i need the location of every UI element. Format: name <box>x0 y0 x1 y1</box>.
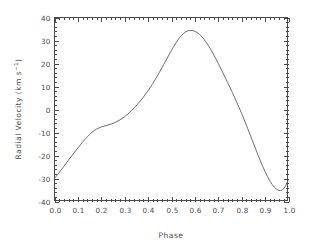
y-axis-major-ticks <box>55 19 289 203</box>
x-tick-label: 0.8 <box>236 206 248 215</box>
x-tick-label: 0.7 <box>212 206 224 215</box>
radial-velocity-curve <box>55 30 289 190</box>
x-tick-label: 0.1 <box>72 206 84 215</box>
x-tick-label: 0.5 <box>166 206 178 215</box>
x-tick-label: 0.6 <box>189 206 201 215</box>
y-tick-label: 10 <box>41 83 51 92</box>
x-axis-tick-labels: 0.00.10.20.30.40.50.60.70.80.91.0 <box>49 206 295 215</box>
y-axis-title-exponent: −1 <box>13 62 19 71</box>
y-tick-label: -30 <box>38 175 51 184</box>
y-tick-label: 30 <box>41 37 51 46</box>
y-tick-label: 20 <box>41 60 51 69</box>
figure-container: 0.00.10.20.30.40.50.60.70.80.91.0 -40-30… <box>0 0 312 246</box>
y-axis-minor-ticks <box>55 23 289 198</box>
x-tick-label: 0.3 <box>119 206 131 215</box>
y-axis-title: Radial Velocity (km s−1) <box>13 59 23 160</box>
x-tick-label: 0.9 <box>259 206 271 215</box>
x-axis-title: Phase <box>159 231 184 240</box>
y-axis-title-main: Radial Velocity (km s <box>14 71 23 160</box>
x-tick-label: 1.0 <box>283 206 295 215</box>
y-tick-label: 40 <box>41 14 51 23</box>
x-tick-label: 0.0 <box>49 206 61 215</box>
plot-frame <box>55 18 288 201</box>
x-tick-label: 0.2 <box>95 206 107 215</box>
y-axis-tick-labels: -40-30-20-10010203040 <box>38 14 51 207</box>
y-tick-label: 0 <box>46 106 51 115</box>
radial-velocity-chart: 0.00.10.20.30.40.50.60.70.80.91.0 -40-30… <box>0 0 312 246</box>
y-axis-title-tail: ) <box>14 59 23 62</box>
y-tick-label: -40 <box>38 198 51 207</box>
y-tick-label: -10 <box>38 129 51 138</box>
y-tick-label: -20 <box>38 152 51 161</box>
x-axis-major-ticks <box>56 18 290 202</box>
x-axis-minor-ticks <box>60 18 285 202</box>
x-tick-label: 0.4 <box>142 206 154 215</box>
